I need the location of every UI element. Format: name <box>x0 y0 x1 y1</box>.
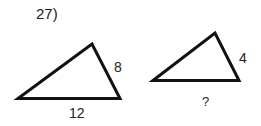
triangle-large-right-side-label: 8 <box>114 59 122 75</box>
triangle-small-right-side-label: 4 <box>239 50 247 66</box>
triangle-large-shape <box>18 44 120 99</box>
triangle-small-bottom-side-label: ? <box>202 94 209 109</box>
triangle-small: 4 ? <box>153 33 247 109</box>
similar-triangles-diagram: 27) 8 12 4 ? <box>0 0 261 126</box>
problem-number: 27) <box>36 5 58 22</box>
triangle-large-bottom-side-label: 12 <box>69 105 85 121</box>
triangle-large: 8 12 <box>18 44 122 121</box>
triangle-small-shape <box>153 33 239 81</box>
